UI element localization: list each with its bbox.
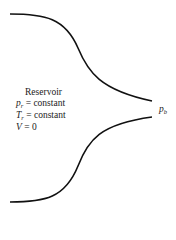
back-pressure-subscript: b <box>164 108 167 115</box>
back-pressure-label: pb <box>159 104 167 117</box>
pressure-subscript: r <box>21 102 24 109</box>
velocity-symbol: V <box>16 122 22 132</box>
reservoir-title: Reservoir <box>25 87 62 98</box>
reservoir-velocity-condition: V = 0 <box>16 122 37 133</box>
temperature-relation: = constant <box>26 110 65 120</box>
temperature-subscript: r <box>21 114 24 121</box>
velocity-relation: = 0 <box>24 122 36 132</box>
pressure-relation: = constant <box>26 98 65 108</box>
